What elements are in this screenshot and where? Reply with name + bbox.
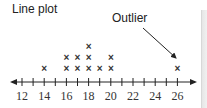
left-arrow-icon [10, 79, 17, 85]
tick-label: 14 [38, 89, 50, 103]
tick-label: 18 [83, 89, 95, 103]
tick-label: 20 [105, 89, 117, 103]
data-marks: ×××××××××××× [41, 41, 180, 74]
tick-label: 16 [60, 89, 72, 103]
x-mark: × [86, 41, 92, 52]
x-mark: × [97, 63, 103, 74]
right-arrow-icon [190, 79, 197, 85]
x-mark: × [108, 63, 114, 74]
tick-label: 24 [149, 89, 161, 103]
number-line-axis [10, 78, 197, 86]
tick-label: 26 [171, 89, 183, 103]
x-mark: × [174, 63, 180, 74]
x-mark: × [63, 52, 69, 63]
tick-label: 22 [127, 89, 139, 103]
tick-labels: 1214161820222426 [16, 89, 183, 103]
x-mark: × [75, 63, 81, 74]
line-plot: ×××××××××××× 1214161820222426 [0, 0, 207, 108]
x-mark: × [63, 63, 69, 74]
x-mark: × [86, 63, 92, 74]
x-mark: × [108, 52, 114, 63]
x-mark: × [86, 52, 92, 63]
x-mark: × [75, 52, 81, 63]
tick-label: 12 [16, 89, 28, 103]
x-mark: × [41, 63, 47, 74]
outlier-arrow-icon [143, 28, 176, 58]
